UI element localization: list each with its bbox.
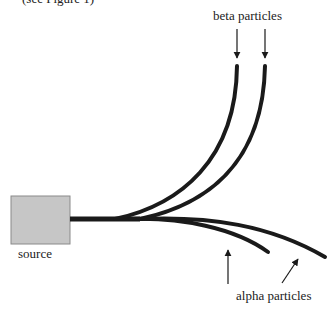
particle-deflection-diagram	[0, 0, 335, 314]
beta-track-2	[140, 66, 265, 219]
beta-track-1	[115, 66, 237, 219]
alpha-track-2	[140, 218, 325, 257]
source-box	[11, 196, 70, 244]
alpha-arrow-2	[282, 259, 298, 283]
alpha-track-1	[130, 219, 268, 252]
